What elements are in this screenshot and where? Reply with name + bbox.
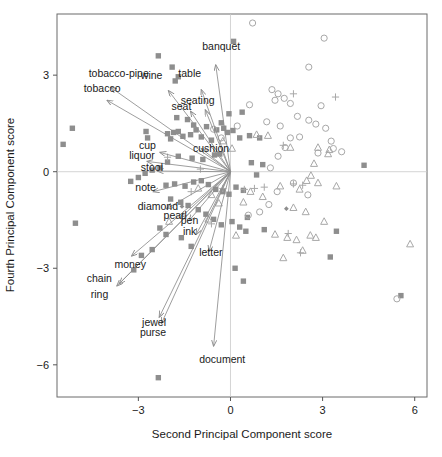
data-point-plus <box>332 93 339 100</box>
data-point-filled-square <box>237 224 242 229</box>
x-tick-label: 3 <box>320 404 326 416</box>
data-point-open-circle <box>394 296 400 302</box>
vector-label-pen: pen <box>181 214 199 226</box>
data-point-filled-square <box>174 115 179 120</box>
data-point-filled-square <box>173 78 178 83</box>
data-point-open-triangle <box>240 198 247 205</box>
data-point-filled-square <box>398 293 403 298</box>
data-point-filled-square <box>241 188 246 193</box>
data-point-open-triangle <box>307 232 314 239</box>
vector-label-document: document <box>199 353 245 365</box>
data-point-open-triangle <box>407 240 414 247</box>
data-point-open-circle <box>272 97 278 103</box>
data-point-filled-square <box>254 172 259 177</box>
data-point-filled-square <box>229 219 234 224</box>
data-point-open-circle <box>281 95 287 101</box>
data-point-filled-square <box>241 278 246 283</box>
vector-label-ink: ink <box>183 225 197 237</box>
data-point-plus <box>261 184 268 191</box>
data-point-plus <box>290 90 297 97</box>
data-point-open-triangle <box>259 193 266 200</box>
plot-canvas: tobacco-pipetobaccowinetableseatingseatc… <box>0 0 442 457</box>
data-point-filled-square <box>249 160 254 165</box>
vector-label-money: money <box>114 258 146 270</box>
data-point-open-triangle <box>284 234 291 241</box>
data-point-open-triangle <box>296 186 303 193</box>
data-point-open-circle <box>249 20 255 26</box>
data-point-filled-square <box>136 175 141 180</box>
data-point-filled-square <box>73 221 78 226</box>
data-point-open-circle <box>275 91 281 97</box>
vector-label-ring: ring <box>91 288 109 300</box>
data-point-filled-square <box>361 163 366 168</box>
vector-label-purse: purse <box>140 326 166 338</box>
data-point-plus <box>280 142 287 149</box>
data-point-plus <box>299 182 306 189</box>
x-tick-label: −3 <box>132 404 145 416</box>
data-point-open-circle <box>296 134 302 140</box>
data-point-open-triangle <box>272 231 279 238</box>
data-point-filled-square <box>204 124 209 129</box>
vector-label-wine: wine <box>140 69 163 81</box>
data-point-filled-square <box>163 183 168 188</box>
data-point-open-circle <box>323 125 329 131</box>
data-point-open-triangle <box>253 131 260 138</box>
data-point-filled-square <box>219 222 224 227</box>
data-point-open-circle <box>313 121 319 127</box>
data-point-open-circle <box>294 113 300 119</box>
data-point-open-circle <box>306 64 312 70</box>
data-point-open-triangle <box>229 145 236 152</box>
vector-label-table: table <box>178 67 201 79</box>
data-point-filled-square <box>232 266 237 271</box>
data-point-open-triangle <box>314 179 321 186</box>
data-point-open-circle <box>234 123 240 129</box>
pca-biplot-figure: tobacco-pipetobaccowinetableseatingseatc… <box>0 0 442 457</box>
vector-label-tobacco: tobacco <box>84 82 121 94</box>
y-tick-label: 0 <box>43 166 49 178</box>
data-point-open-triangle <box>277 182 284 189</box>
data-point-open-circle <box>306 117 312 123</box>
data-point-filled-square <box>237 135 242 140</box>
data-point-open-triangle <box>293 236 300 243</box>
data-point-open-circle <box>287 135 293 141</box>
data-point-filled-square <box>239 109 244 114</box>
data-point-filled-square <box>233 184 238 189</box>
data-point-filled-square <box>200 157 205 162</box>
data-point-filled-square <box>128 179 133 184</box>
data-point-filled-square <box>226 111 231 116</box>
data-point-filled-square <box>189 155 194 160</box>
data-point-open-triangle <box>311 160 318 167</box>
data-point-open-triangle <box>314 144 321 151</box>
x-axis-ticks: −3036 <box>132 397 418 416</box>
y-axis-ticks: 30−3−6 <box>36 69 57 371</box>
vector-label-note: note <box>135 181 156 193</box>
data-point-open-circle <box>277 123 283 129</box>
data-point-open-triangle <box>325 150 332 157</box>
data-point-open-circle <box>264 119 270 125</box>
data-point-filled-square <box>334 229 339 234</box>
vector-label-stool: stool <box>141 161 163 173</box>
data-point-filled-square <box>156 53 161 58</box>
data-point-open-circle <box>318 103 324 109</box>
vector-label-liquor: liquor <box>129 149 155 161</box>
data-point-open-circle <box>257 209 263 215</box>
vector-label-chain: chain <box>87 272 112 284</box>
data-point-open-circle <box>321 35 327 41</box>
data-point-open-circle <box>305 192 311 198</box>
data-point-open-circle <box>269 87 275 93</box>
vector-label-seat: seat <box>172 100 192 112</box>
data-point-filled-square <box>143 129 148 134</box>
data-point-open-circle <box>267 165 273 171</box>
data-point-open-circle <box>315 150 321 156</box>
data-point-filled-square <box>247 133 252 138</box>
data-point-filled-square <box>70 126 75 131</box>
data-point-filled-square <box>169 64 174 69</box>
y-tick-label: −3 <box>36 262 49 274</box>
data-point-open-circle <box>274 189 280 195</box>
y-tick-label: 3 <box>43 69 49 81</box>
data-point-filled-square <box>60 142 65 147</box>
x-axis-title: Second Principal Component score <box>152 428 332 440</box>
data-point-filled-square <box>262 227 267 232</box>
y-tick-label: −6 <box>36 359 49 371</box>
data-point-filled-square <box>328 254 333 259</box>
